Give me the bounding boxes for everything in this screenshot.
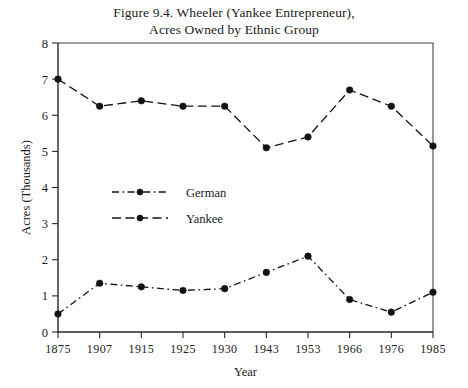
legend-label: German — [186, 186, 227, 200]
series-path — [58, 79, 433, 148]
x-tick-label: 1930 — [212, 342, 238, 356]
y-axis-title: Acres (Thousands) — [19, 140, 33, 235]
y-tick-label: 4 — [42, 181, 49, 195]
y-tick-label: 7 — [42, 73, 48, 87]
x-tick-label: 1943 — [254, 342, 280, 356]
data-point — [430, 289, 437, 296]
data-point — [55, 76, 62, 83]
figure-container: Figure 9.4. Wheeler (Yankee Entrepreneur… — [0, 0, 468, 388]
legend-marker-sample — [137, 215, 143, 221]
data-point — [430, 143, 437, 150]
data-point — [55, 311, 62, 318]
data-point — [388, 103, 395, 110]
data-point — [180, 287, 187, 294]
x-tick-label: 1953 — [295, 342, 321, 356]
x-tick-label: 1875 — [45, 342, 71, 356]
plot-frame — [58, 43, 433, 332]
x-tick-label: 1976 — [379, 342, 405, 356]
data-point — [221, 103, 228, 110]
y-tick-label: 8 — [42, 37, 48, 51]
x-tick-label: 1907 — [87, 342, 113, 356]
y-tick-label: 5 — [42, 145, 48, 159]
series-yankee — [55, 76, 437, 151]
y-tick-label: 6 — [42, 109, 48, 123]
y-tick-label: 0 — [42, 326, 48, 340]
x-tick-label: 1985 — [420, 342, 446, 356]
legend-marker-sample — [137, 189, 143, 195]
legend-entry-yankee: Yankee — [112, 212, 223, 226]
x-tick-label: 1966 — [337, 342, 363, 356]
data-point — [138, 284, 145, 291]
x-tick-label: 1925 — [170, 342, 196, 356]
chart-frame — [58, 43, 433, 332]
plot-axes — [58, 43, 433, 332]
data-point — [96, 103, 103, 110]
data-point — [263, 269, 270, 276]
data-point — [305, 253, 312, 260]
y-tick-label: 2 — [42, 253, 48, 267]
x-axis-title: Year — [234, 365, 258, 379]
data-point — [138, 98, 145, 105]
data-point — [96, 280, 103, 287]
series-path — [58, 256, 433, 314]
y-tick-label: 1 — [42, 289, 48, 303]
x-axis-tick-labels: 1875190719151925193019431953196619761985 — [45, 342, 446, 356]
data-point — [388, 309, 395, 316]
y-axis-ticks — [52, 43, 58, 332]
data-point — [180, 103, 187, 110]
series-german — [55, 253, 437, 317]
y-tick-label: 3 — [42, 217, 48, 231]
data-point — [346, 296, 353, 303]
data-point — [221, 285, 228, 292]
x-axis-ticks — [58, 332, 433, 338]
legend-entry-german: German — [112, 186, 227, 200]
data-point — [263, 144, 270, 151]
x-tick-label: 1915 — [129, 342, 155, 356]
y-axis-tick-labels: 012345678 — [42, 37, 49, 340]
chart-legend: GermanYankee — [112, 186, 227, 226]
data-point — [346, 87, 353, 94]
data-point — [305, 134, 312, 141]
line-chart: 012345678 187519071915192519301943195319… — [0, 0, 468, 388]
series-layer — [55, 76, 437, 317]
legend-label: Yankee — [186, 212, 223, 226]
